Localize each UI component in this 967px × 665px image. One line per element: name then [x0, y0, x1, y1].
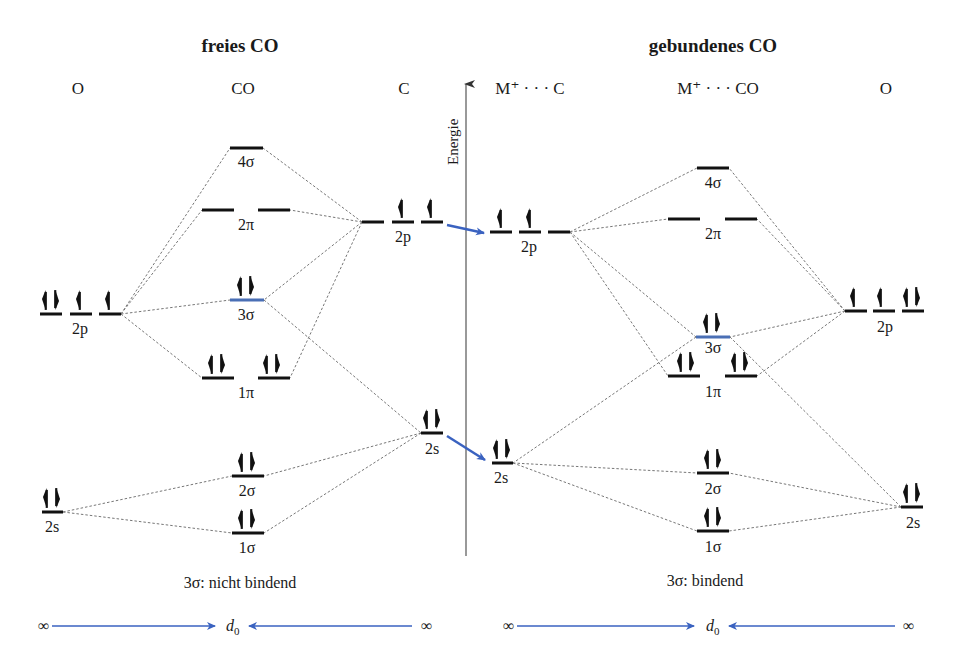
column-left-o: O [72, 79, 84, 98]
spin-up-icon [427, 198, 432, 218]
spin-up-icon [703, 313, 708, 333]
infinity-left-start: ∞ [38, 617, 49, 634]
left-co-2pi: 2π [202, 210, 290, 233]
right-o-2s: 2s [901, 483, 923, 531]
spin-up-icon [704, 507, 709, 527]
label-right-co-2pi: 2π [705, 225, 721, 242]
label-right-o-2s: 2s [906, 514, 920, 531]
title-free-co: freies CO [201, 35, 278, 56]
label-right-co-4sigma: 4σ [705, 174, 722, 191]
column-right-o: O [880, 79, 892, 98]
spin-down-icon [249, 276, 254, 296]
label-right-c-2s: 2s [494, 469, 508, 486]
spin-up-icon [677, 352, 682, 372]
d0-right: d0 [706, 617, 720, 637]
left-co-2sigma: 2σ [232, 452, 264, 499]
spin-up-icon [493, 439, 498, 459]
distance-scale-right: ∞ d0 ∞ [503, 617, 914, 637]
column-right-mc: M⁺ · · · C [495, 79, 564, 98]
label-left-co-2sigma: 2σ [239, 482, 256, 499]
column-left-c: C [398, 79, 409, 98]
right-co-2sigma: 2σ [697, 449, 729, 497]
right-co-1pi: 1π [668, 352, 757, 400]
caption-left: 3σ: nicht bindend [184, 574, 297, 591]
caption-right: 3σ: bindend [667, 572, 744, 589]
spin-down-icon [220, 354, 225, 374]
left-co-3sigma: 3σ [230, 276, 264, 323]
spin-down-icon [54, 290, 59, 310]
spin-up-icon [497, 208, 502, 228]
label-left-c-2p: 2p [395, 228, 411, 246]
label-left-co-3sigma: 3σ [238, 306, 255, 323]
energy-axis-label: Energie [445, 118, 461, 165]
label-right-o-2p: 2p [877, 318, 893, 336]
label-left-o-2s: 2s [45, 518, 59, 535]
d0-left: d0 [226, 617, 240, 637]
spin-down-icon [915, 483, 920, 503]
left-o-2s: 2s [42, 488, 63, 535]
spin-down-icon [743, 352, 748, 372]
spin-up-icon [42, 290, 47, 310]
label-left-o-2p: 2p [72, 320, 88, 338]
left-o-2p: 2p [40, 290, 121, 338]
spin-down-icon [250, 509, 255, 529]
right-co-3sigma: 3σ [696, 313, 730, 356]
right-o-2p: 2p [845, 287, 924, 336]
infinity-right-start: ∞ [503, 617, 514, 634]
left-co-4sigma: 4σ [230, 148, 263, 170]
spin-up-icon [903, 483, 908, 503]
spin-up-icon [76, 290, 81, 310]
right-co-1sigma: 1σ [697, 507, 729, 555]
label-right-c-2p: 2p [521, 238, 537, 256]
spin-down-icon [435, 409, 440, 429]
spin-up-icon [704, 449, 709, 469]
spin-up-icon [105, 290, 110, 310]
label-right-co-3sigma: 3σ [705, 339, 722, 356]
spin-up-icon [237, 276, 242, 296]
column-right-mco: M⁺ · · · CO [677, 79, 759, 98]
spin-up-icon [731, 352, 736, 372]
label-left-co-4sigma: 4σ [238, 153, 255, 170]
spin-down-icon [275, 354, 280, 374]
label-right-co-1sigma: 1σ [705, 538, 722, 555]
spin-up-icon [423, 409, 428, 429]
left-co-1pi: 1π [202, 354, 290, 401]
spin-up-icon [398, 198, 403, 218]
spin-down-icon [716, 507, 721, 527]
spin-down-icon [55, 488, 60, 508]
right-co-4sigma: 4σ [697, 168, 729, 191]
spin-up-icon [208, 354, 213, 374]
title-bound-co: gebundenes CO [649, 35, 777, 56]
column-left-co: CO [231, 79, 255, 98]
spin-up-icon [903, 287, 908, 307]
label-right-co-2sigma: 2σ [705, 480, 722, 497]
spin-up-icon [238, 452, 243, 472]
left-c-2p: 2p [362, 198, 443, 246]
label-left-co-2pi: 2π [238, 216, 254, 233]
distance-scale-left: ∞ d0 ∞ [38, 617, 432, 637]
label-left-c-2s: 2s [425, 440, 439, 457]
spin-up-icon [850, 287, 855, 307]
spin-up-icon [238, 509, 243, 529]
spin-down-icon [250, 452, 255, 472]
spin-down-icon [915, 287, 920, 307]
label-right-co-1pi: 1π [705, 383, 721, 400]
label-left-co-1sigma: 1σ [239, 539, 256, 556]
spin-down-icon [715, 313, 720, 333]
spin-up-icon [43, 488, 48, 508]
spin-down-icon [505, 439, 510, 459]
infinity-right-end: ∞ [903, 617, 914, 634]
spin-up-icon [526, 208, 531, 228]
infinity-left-end: ∞ [421, 617, 432, 634]
label-left-co-1pi: 1π [238, 384, 254, 401]
left-c-2s: 2s [421, 409, 443, 457]
right-co-2pi: 2π [668, 219, 757, 242]
right-c-2p: 2p [490, 208, 570, 256]
spin-up-icon [877, 287, 882, 307]
spin-up-icon [263, 354, 268, 374]
right-c-2s: 2s [492, 439, 513, 486]
spin-down-icon [689, 352, 694, 372]
left-co-1sigma: 1σ [232, 509, 264, 556]
spin-down-icon [716, 449, 721, 469]
mo-diagram: freies CO gebundenes CO O CO C M⁺ · · · … [0, 0, 967, 665]
